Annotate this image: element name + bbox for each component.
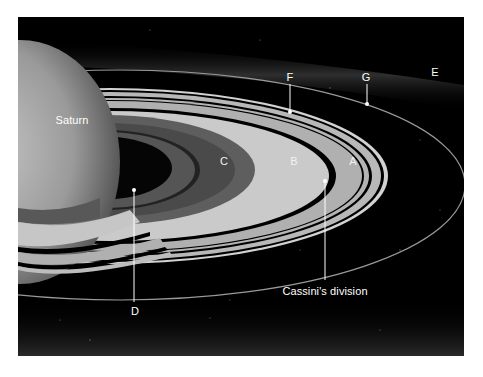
ring-a-label: A bbox=[349, 155, 356, 167]
ring-e-label: E bbox=[431, 66, 438, 78]
ring-d-label: D bbox=[131, 305, 139, 317]
ring-c-label: C bbox=[220, 155, 228, 167]
saturn-ring-diagram bbox=[18, 17, 464, 356]
ring-g-label: G bbox=[362, 71, 371, 83]
ring-f-label: F bbox=[287, 71, 294, 83]
saturn-label: Saturn bbox=[55, 114, 88, 126]
cassini-division-label: Cassini's division bbox=[282, 285, 367, 297]
ring-illustration bbox=[18, 17, 464, 356]
ring-b-label: B bbox=[290, 155, 297, 167]
e-ring-haze-bottom bbox=[18, 300, 464, 356]
